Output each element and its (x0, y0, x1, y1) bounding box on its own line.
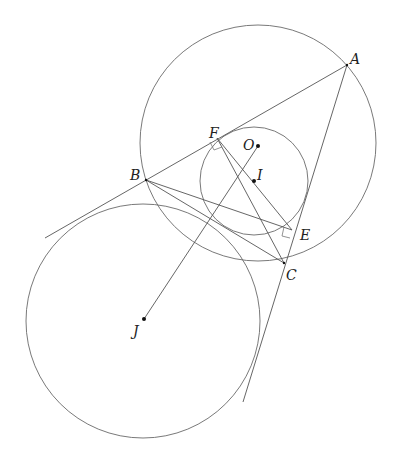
point-J (142, 317, 146, 321)
label-B: B (129, 167, 140, 183)
excircle (26, 204, 260, 438)
label-E: E (299, 227, 310, 243)
label-I: I (256, 167, 263, 183)
point-B (145, 179, 147, 181)
label-C: C (286, 267, 297, 283)
label-O: O (243, 137, 255, 153)
label-F: F (208, 125, 220, 141)
segment-BC (146, 180, 284, 263)
point-I (252, 179, 256, 183)
diagram-svg: A B C E F O I J (0, 0, 396, 464)
point-O (256, 144, 260, 148)
label-J: J (130, 323, 140, 339)
label-A: A (348, 51, 360, 67)
point-A (346, 64, 348, 66)
geometry-diagram: A B C E F O I J (0, 0, 396, 464)
point-C (283, 262, 285, 264)
circumcircle (140, 25, 376, 261)
